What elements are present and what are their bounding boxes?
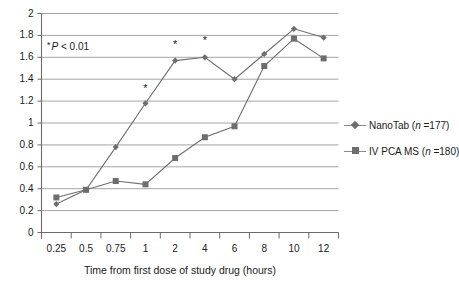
p-value-annotation: *P < 0.01 bbox=[47, 40, 89, 52]
series-lines bbox=[56, 29, 323, 204]
significance-asterisk: * bbox=[173, 38, 178, 50]
y-axis-tick-label: 1.8 bbox=[0, 30, 34, 40]
y-axis-tick-label: 0 bbox=[0, 228, 34, 238]
series-markers bbox=[53, 26, 327, 207]
y-axis-tick-label: 1.4 bbox=[0, 74, 34, 84]
x-axis-title: Time from first dose of study drug (hour… bbox=[0, 264, 360, 276]
y-axis-tick-label: 0.6 bbox=[0, 162, 34, 172]
x-axis-tick-label: 12 bbox=[302, 244, 346, 254]
y-axis-tick-label: 2 bbox=[0, 9, 34, 19]
legend-key-square-icon bbox=[344, 145, 366, 157]
y-axis-tick-label: 1.6 bbox=[0, 52, 34, 62]
y-axis-tick-label: 0.4 bbox=[0, 184, 34, 194]
legend-key-diamond-icon bbox=[344, 119, 366, 131]
legend-item-iv-pca-ms: IV PCA MS (n =180) bbox=[344, 138, 457, 164]
asterisk-symbol: * bbox=[47, 40, 51, 50]
y-axis-tick-label: 1.2 bbox=[0, 96, 34, 106]
significance-asterisks: *** bbox=[143, 34, 207, 94]
legend-label-nanotab: NanoTab (n =177) bbox=[369, 120, 449, 131]
y-axis-tick-label: 0.8 bbox=[0, 140, 34, 150]
chart-legend: NanoTab (n =177) IV PCA MS (n =180) bbox=[344, 112, 457, 164]
p-threshold-text: < 0.01 bbox=[58, 41, 89, 52]
significance-asterisk: * bbox=[143, 82, 148, 94]
y-axis-tick-label: 1 bbox=[0, 118, 34, 128]
legend-item-nanotab: NanoTab (n =177) bbox=[344, 112, 457, 138]
legend-label-iv-pca-ms: IV PCA MS (n =180) bbox=[369, 146, 459, 157]
significance-asterisk: * bbox=[203, 34, 208, 46]
y-axis-tick-label: 0.2 bbox=[0, 206, 34, 216]
